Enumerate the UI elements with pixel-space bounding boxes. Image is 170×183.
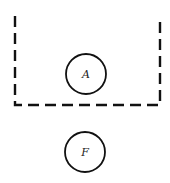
dashed-boundary <box>15 16 160 105</box>
node-a: A <box>66 54 106 94</box>
diagram-canvas: A F <box>0 0 170 183</box>
node-f-label: F <box>80 146 89 159</box>
node-f: F <box>65 132 105 172</box>
node-a-label: A <box>81 68 90 81</box>
